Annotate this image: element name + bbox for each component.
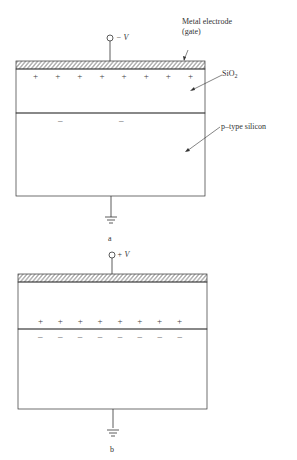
- substrate-charge: –: [58, 115, 63, 125]
- mos-diagrams: [0, 0, 297, 460]
- substrate-charge: –: [119, 115, 124, 125]
- silicon-substrate-a: [16, 113, 205, 196]
- gate-electrode-a: [16, 61, 205, 69]
- figure-b-structure: [18, 252, 207, 436]
- ground-b-icon: [107, 430, 119, 436]
- caption-a: a: [108, 234, 112, 243]
- oxide-charges-a: + + + + + + + +: [33, 71, 193, 81]
- gate-electrode-b: [18, 274, 207, 282]
- terminal-b-icon: [109, 252, 115, 258]
- substrate-label: p–type silicon: [221, 122, 266, 131]
- gate-paren-label: (gate): [182, 27, 201, 36]
- gate-label: Metal electrode: [182, 17, 232, 26]
- terminal-a-icon: [107, 35, 113, 41]
- silicon-substrate-b: [18, 329, 207, 409]
- voltage-label-b: + V: [117, 250, 129, 259]
- ground-a-icon: [105, 217, 117, 223]
- negative-charges-b: – – – – – – – –: [38, 331, 182, 341]
- figure-a-structure: [16, 35, 222, 223]
- voltage-label-a: − V: [116, 33, 128, 42]
- oxide-label: SiO2: [222, 69, 237, 81]
- caption-b: b: [110, 445, 114, 454]
- positive-charges-b: + + + + + + + +: [38, 316, 182, 326]
